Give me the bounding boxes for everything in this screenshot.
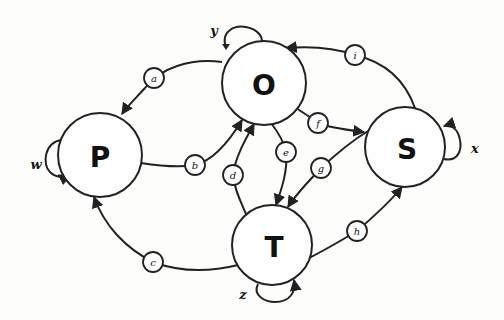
- edge-e: [271, 123, 286, 205]
- svg-text:h: h: [354, 226, 360, 237]
- node-label: S: [397, 133, 417, 166]
- node-P[interactable]: P: [58, 113, 142, 197]
- svg-text:b: b: [192, 160, 198, 171]
- edge-c: [94, 197, 238, 270]
- node-label: P: [90, 141, 111, 174]
- loop-label-x: x: [470, 141, 479, 156]
- node-label: T: [264, 231, 283, 264]
- loop-label-w: w: [30, 157, 42, 172]
- edge-tag-i: i: [345, 45, 365, 65]
- loop-label-z: z: [238, 287, 247, 302]
- svg-text:c: c: [150, 257, 156, 268]
- edge-tag-d: d: [223, 165, 243, 185]
- svg-text:e: e: [283, 147, 289, 158]
- edge-tag-f: f: [308, 113, 328, 133]
- edge-tag-e: e: [276, 142, 296, 162]
- node-T[interactable]: T: [232, 205, 312, 285]
- svg-text:g: g: [318, 163, 324, 174]
- node-O[interactable]: O: [222, 41, 306, 125]
- edge-tag-g: g: [311, 158, 331, 178]
- svg-text:i: i: [353, 50, 356, 61]
- node-S[interactable]: S: [365, 107, 445, 187]
- edge-tag-b: b: [185, 155, 205, 175]
- svg-text:d: d: [230, 170, 236, 181]
- edge-tag-a: a: [144, 68, 164, 88]
- edge-tag-c: c: [143, 252, 163, 272]
- node-label: O: [252, 69, 276, 102]
- edge-tag-h: h: [347, 221, 367, 241]
- state-diagram: O P S T a b c d e f g h: [0, 0, 504, 320]
- edge-a: [122, 61, 222, 114]
- loop-label-y: y: [209, 23, 219, 38]
- svg-text:a: a: [151, 73, 157, 84]
- edge-f: [296, 108, 364, 132]
- self-loop-x: [444, 126, 460, 160]
